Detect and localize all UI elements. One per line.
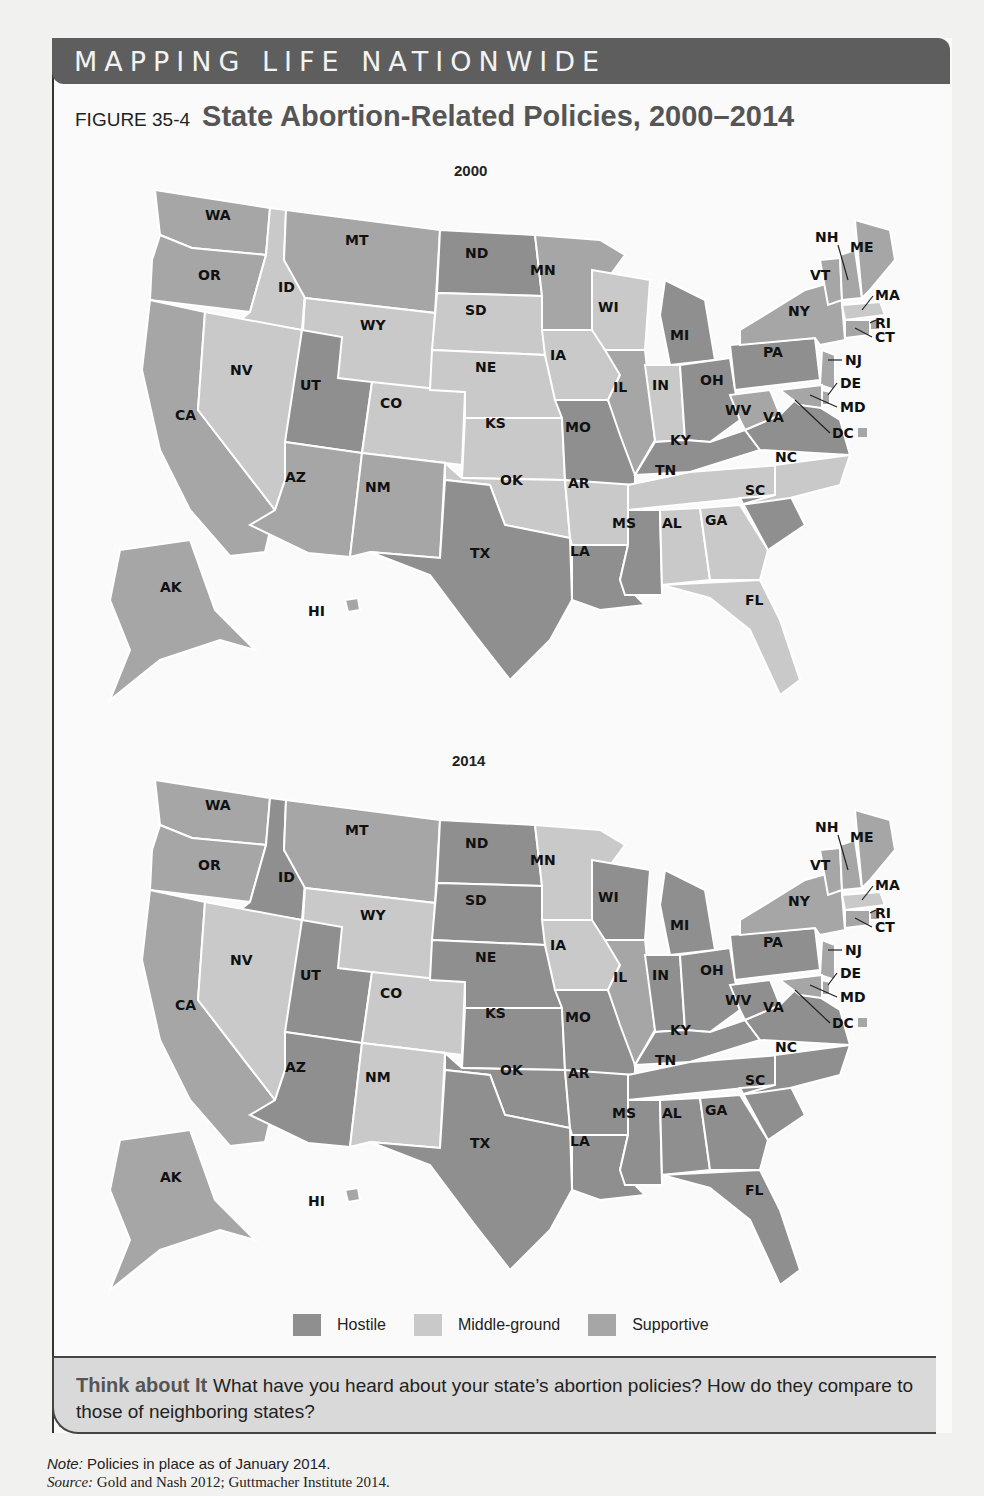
state-fl [662,580,800,695]
state-label-ms: MS [612,515,636,531]
state-label-ak: AK [160,579,183,595]
state-label-wy: WY [360,317,386,333]
state-label-la: LA [570,543,590,559]
state-label-il: IL [613,379,627,395]
state-hi [345,1188,360,1202]
state-co [362,382,465,465]
state-label-or: OR [198,857,221,873]
state-label-mt: MT [345,822,369,838]
state-label-ut: UT [300,377,321,393]
state-ak [110,1130,255,1290]
state-md [780,975,822,998]
state-label-oh: OH [700,372,724,388]
state-label-az: AZ [285,469,306,485]
state-label-ct: CT [875,329,895,345]
state-ks [462,1008,565,1070]
state-label-in: IN [652,967,669,983]
state-hi [345,598,360,612]
note-label: Note: [47,1455,83,1472]
figure-name: State Abortion-Related Policies, 2000–20… [202,100,794,133]
state-label-ak: AK [160,1169,183,1185]
state-label-mo: MO [565,419,591,435]
state-label-id: ID [278,869,295,885]
legend-item-hostile: Hostile [293,1314,386,1336]
legend-label: Supportive [632,1316,709,1334]
state-label-nc: NC [775,1039,797,1055]
state-label-wy: WY [360,907,386,923]
state-dc-marker [858,428,867,437]
state-label-nm: NM [365,1069,391,1085]
state-label-mi: MI [670,327,689,343]
state-md [780,385,822,408]
state-label-al: AL [662,515,682,531]
state-label-de: DE [840,375,861,391]
note-text: Policies in place as of January 2014. [87,1455,330,1472]
state-label-nh: NH [815,229,838,245]
state-label-vt: VT [810,857,831,873]
state-label-ma: MA [875,287,900,303]
state-label-ks: KS [485,415,506,431]
state-label-nc: NC [775,449,797,465]
state-label-mn: MN [530,262,556,278]
legend-swatch-middle-ground [414,1314,442,1336]
legend-swatch-supportive [588,1314,616,1336]
state-label-ut: UT [300,967,321,983]
state-label-co: CO [380,985,402,1001]
state-co [362,972,465,1055]
state-label-nd: ND [465,245,488,261]
state-label-ky: KY [670,432,692,448]
state-label-ga: GA [705,1102,727,1118]
state-label-ms: MS [612,1105,636,1121]
state-label-md: MD [840,989,866,1005]
figure-notes: Note: Policies in place as of January 20… [47,1455,390,1491]
state-label-de: DE [840,965,861,981]
state-label-mi: MI [670,917,689,933]
state-label-az: AZ [285,1059,306,1075]
state-label-pa: PA [763,344,783,360]
state-label-fl: FL [745,1182,764,1198]
us-map-svg: WAORCAIDNVMTWYUTCOAZNMNDSDNEKSOKTXMNIAMO… [80,180,910,740]
map-2000: WAORCAIDNVMTWYUTCOAZNMNDSDNEKSOKTXMNIAMO… [80,180,910,740]
state-sd [432,883,545,945]
state-label-ma: MA [875,877,900,893]
figure-number: FIGURE 35-4 [75,109,190,131]
state-dc-marker [858,1018,867,1027]
section-banner: MAPPING LIFE NATIONWIDE [52,38,950,84]
state-label-mt: MT [345,232,369,248]
state-label-ar: AR [568,475,590,491]
state-label-nj: NJ [845,352,862,368]
state-label-wa: WA [205,797,231,813]
state-label-co: CO [380,395,402,411]
state-label-nh: NH [815,819,838,835]
state-sd [432,293,545,355]
map-year-2000: 2000 [454,162,487,179]
state-label-ia: IA [550,937,566,953]
state-ak [110,540,255,700]
us-map-svg: WAORCAIDNVMTWYUTCOAZNMNDSDNEKSOKTXMNIAMO… [80,770,910,1330]
state-nd [437,230,542,296]
state-fl [662,1170,800,1285]
state-label-fl: FL [745,592,764,608]
map-2014: WAORCAIDNVMTWYUTCOAZNMNDSDNEKSOKTXMNIAMO… [80,770,910,1330]
state-label-ia: IA [550,347,566,363]
state-label-vt: VT [810,267,831,283]
state-label-il: IL [613,969,627,985]
state-label-pa: PA [763,934,783,950]
think-about-it-box: Think about ItWhat have you heard about … [52,1356,936,1434]
state-label-tn: TN [655,462,676,478]
legend-item-supportive: Supportive [588,1314,709,1336]
state-label-hi: HI [308,1193,325,1209]
legend-swatch-hostile [293,1314,321,1336]
legend-item-middle-ground: Middle-ground [414,1314,560,1336]
state-label-va: VA [763,999,784,1015]
state-label-ks: KS [485,1005,506,1021]
state-label-wi: WI [598,889,619,905]
state-label-in: IN [652,377,669,393]
state-label-ok: OK [500,1062,524,1078]
state-label-ny: NY [788,893,811,909]
state-label-ky: KY [670,1022,692,1038]
state-label-va: VA [763,409,784,425]
legend-label: Middle-ground [458,1316,560,1334]
source-label: Source: [47,1474,93,1490]
state-label-me: ME [850,239,874,255]
